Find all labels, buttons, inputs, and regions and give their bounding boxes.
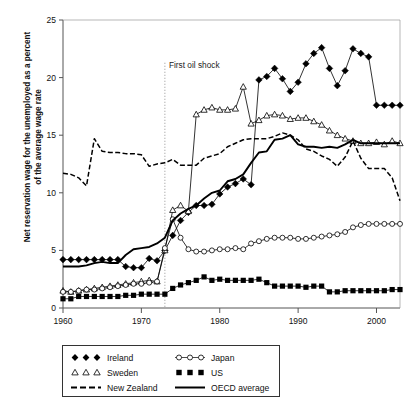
data-marker: [209, 278, 214, 283]
legend-symbol-open-triangle: [69, 367, 103, 378]
legend-symbol-filled-square: [173, 367, 207, 378]
data-marker: [343, 288, 348, 293]
data-marker: [318, 44, 325, 51]
y-tick-label: 20: [47, 73, 57, 83]
data-marker: [397, 287, 402, 292]
data-marker: [115, 294, 120, 299]
data-marker: [256, 239, 261, 244]
data-marker: [232, 180, 239, 187]
data-marker: [225, 247, 230, 252]
data-marker: [272, 111, 278, 117]
data-marker: [288, 235, 293, 240]
legend-symbol-open-circle: [173, 352, 207, 363]
data-marker: [147, 292, 152, 297]
data-marker: [264, 280, 269, 285]
y-tick-label: 25: [47, 15, 57, 25]
series-line: [63, 277, 400, 299]
data-marker: [310, 50, 317, 57]
data-marker: [358, 50, 365, 57]
data-marker: [335, 232, 340, 237]
data-marker: [319, 234, 324, 239]
data-marker: [373, 102, 380, 109]
data-marker: [92, 287, 97, 292]
data-marker: [350, 225, 355, 230]
data-marker: [366, 221, 371, 226]
legend-item-us[interactable]: US: [173, 367, 283, 378]
data-marker: [92, 294, 97, 299]
data-marker: [296, 284, 301, 289]
legend-item-ireland[interactable]: Ireland: [69, 352, 173, 363]
data-marker: [201, 202, 208, 209]
series-line: [63, 135, 400, 266]
y-tick-label: 15: [47, 130, 57, 140]
data-marker: [84, 294, 89, 299]
data-marker: [296, 236, 301, 241]
data-marker: [390, 287, 395, 292]
y-tick-label: 0: [51, 303, 56, 313]
data-marker: [366, 288, 371, 293]
data-marker: [390, 221, 395, 226]
data-marker: [389, 102, 396, 109]
data-marker: [60, 296, 65, 301]
data-marker: [358, 223, 363, 228]
data-marker: [76, 288, 81, 293]
legend: IrelandJapanSwedenUSNew ZealandOECD aver…: [62, 345, 280, 397]
data-marker: [108, 285, 113, 290]
data-marker: [382, 288, 387, 293]
data-marker: [84, 287, 89, 292]
data-marker: [209, 201, 216, 208]
legend-item-label: New Zealand: [107, 383, 158, 393]
data-marker: [350, 46, 357, 53]
data-marker: [60, 256, 67, 263]
data-marker: [147, 280, 152, 285]
chart-page: Net reservation wage for the unemployed …: [0, 0, 418, 405]
data-marker: [374, 221, 379, 226]
legend-item-oecd-average[interactable]: OECD average: [173, 382, 283, 393]
data-marker: [303, 285, 308, 290]
data-marker: [194, 278, 199, 283]
data-marker: [279, 75, 286, 82]
oil-shock-annotation: First oil shock: [169, 60, 221, 70]
data-marker: [177, 202, 183, 208]
x-tick-label: 1960: [54, 316, 73, 326]
data-marker: [162, 246, 167, 251]
x-tick-label: 1980: [210, 316, 229, 326]
data-marker: [241, 247, 246, 252]
data-marker: [240, 84, 246, 90]
series-layer: [60, 44, 404, 301]
data-marker: [343, 229, 348, 234]
data-marker: [327, 233, 332, 238]
data-marker: [334, 82, 341, 89]
data-marker: [178, 282, 183, 287]
data-marker: [68, 289, 73, 294]
data-marker: [123, 282, 128, 287]
data-marker: [248, 181, 255, 188]
legend-item-new-zealand[interactable]: New Zealand: [69, 382, 173, 393]
legend-symbol-filled-diamond: [69, 352, 103, 363]
series-oecd-average: [63, 135, 400, 266]
legend-item-sweden[interactable]: Sweden: [69, 367, 173, 378]
data-marker: [381, 102, 388, 109]
data-marker: [249, 241, 254, 246]
data-marker: [248, 278, 253, 283]
series-line: [63, 48, 400, 268]
data-marker: [107, 294, 112, 299]
series-line: [63, 87, 400, 292]
data-marker: [233, 246, 238, 251]
y-tick-label: 10: [47, 188, 57, 198]
annotation-layer: First oil shock: [165, 60, 221, 308]
data-marker: [75, 256, 82, 263]
data-marker: [61, 289, 66, 294]
legend-item-label: Sweden: [107, 368, 138, 378]
legend-item-label: Ireland: [107, 353, 133, 363]
data-marker: [154, 292, 159, 297]
data-marker: [374, 288, 379, 293]
legend-item-japan[interactable]: Japan: [173, 352, 283, 363]
data-marker: [334, 132, 340, 138]
data-marker: [280, 235, 285, 240]
data-marker: [139, 292, 144, 297]
axes-layer: [59, 20, 400, 313]
data-marker: [280, 284, 285, 289]
data-marker: [272, 284, 277, 289]
data-marker: [326, 127, 332, 133]
